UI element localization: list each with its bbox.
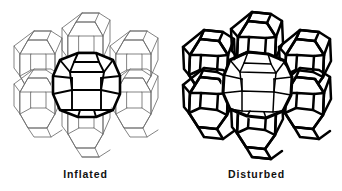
caption-inflated: Inflated <box>0 168 171 181</box>
cage-center-highlighted <box>221 52 293 119</box>
inflated-model-drawing <box>0 0 171 166</box>
disturbed-model-drawing <box>171 0 342 166</box>
panel-inflated: Inflated <box>0 0 171 191</box>
cage-center-highlighted <box>51 52 121 118</box>
panel-disturbed: Disturbed <box>171 0 342 191</box>
caption-disturbed: Disturbed <box>171 168 342 181</box>
figure-board: Inflated <box>0 0 342 191</box>
